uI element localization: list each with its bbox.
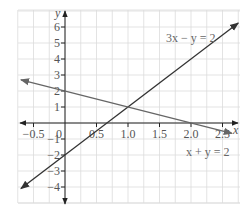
equation-label-1: 3x − y = 2 [166, 31, 216, 45]
y-tick-label: 6 [54, 20, 60, 34]
y-tick-label: 4 [54, 52, 60, 66]
x-tick-label: 0.5 [89, 127, 104, 141]
x-axis-label: x [232, 123, 239, 137]
y-tick-label: 3 [54, 68, 60, 82]
equation-label-2: x + y = 2 [186, 145, 230, 159]
y-tick-label: −4 [47, 180, 60, 194]
y-tick-label: 5 [54, 36, 60, 50]
x-tick-label: −0.5 [23, 127, 45, 141]
y-axis-label: y [54, 6, 61, 20]
y-tick-label: 2 [54, 84, 60, 98]
y-tick-label: −3 [47, 164, 60, 178]
line-chart: 654321−1−2−3−4−0.500.51.01.52.02.5 y x 3… [0, 0, 251, 213]
x-tick-label: 0 [56, 127, 62, 141]
y-tick-label: 1 [54, 100, 60, 114]
x-tick-label: 2.0 [184, 127, 199, 141]
x-tick-label: 1.0 [121, 127, 136, 141]
x-tick-label: 1.5 [152, 127, 167, 141]
